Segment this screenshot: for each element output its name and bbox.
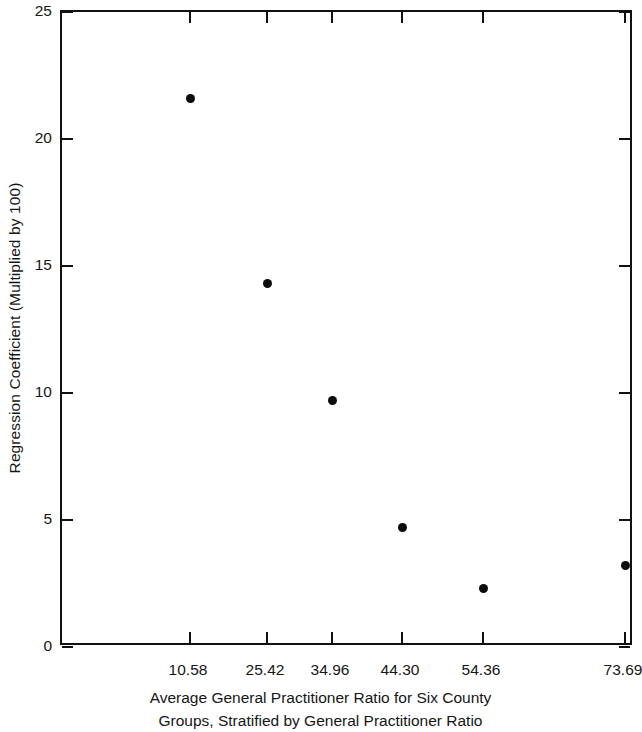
data-points-layer (62, 12, 630, 643)
x-axis-tick-label: 54.36 (462, 662, 501, 678)
x-axis-tick-label: 34.96 (311, 662, 350, 678)
y-axis-tick-label: 10 (6, 384, 52, 400)
y-axis-tick-label: 20 (6, 130, 52, 146)
y-axis-title: Regression Coefficient (Multiplied by 10… (6, 182, 24, 473)
y-axis-title-container: Regression Coefficient (Multiplied by 10… (0, 0, 30, 655)
data-point (621, 561, 630, 570)
data-point (263, 279, 272, 288)
plot-area (60, 10, 632, 645)
y-axis-tick (619, 646, 630, 648)
x-axis-title-line-1: Average General Practitioner Ratio for S… (0, 686, 641, 709)
data-point (479, 584, 488, 593)
x-axis-title-line-2: Groups, Stratified by General Practition… (0, 709, 641, 732)
x-axis-tick-label: 73.69 (604, 662, 642, 678)
y-axis-tick-label: 5 (6, 511, 52, 527)
data-point (328, 396, 337, 405)
y-axis-tick-label: 0 (6, 638, 52, 654)
x-axis-title: Average General Practitioner Ratio for S… (0, 686, 641, 732)
y-axis-tick-label: 25 (6, 3, 52, 19)
data-point (186, 94, 195, 103)
data-point (398, 523, 407, 532)
x-axis-tick-label: 10.58 (169, 662, 208, 678)
x-axis-tick-label: 25.42 (246, 662, 285, 678)
y-axis-tick (62, 646, 73, 648)
x-axis-tick-label: 44.30 (381, 662, 420, 678)
y-axis-tick-label: 15 (6, 257, 52, 273)
